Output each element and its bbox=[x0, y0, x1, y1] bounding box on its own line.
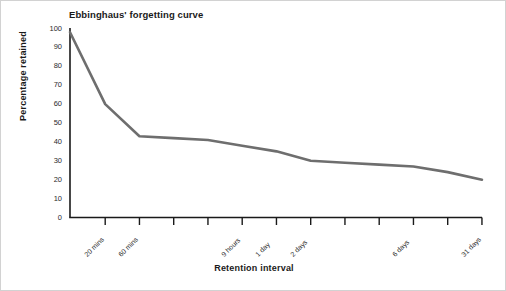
y-tick-label: 100 bbox=[36, 24, 62, 33]
y-tick-label: 20 bbox=[36, 175, 62, 184]
x-axis-ticks bbox=[105, 218, 482, 226]
plot-area bbox=[1, 1, 506, 291]
axes bbox=[69, 28, 482, 218]
y-tick-label: 30 bbox=[36, 156, 62, 165]
y-tick-label: 10 bbox=[36, 194, 62, 203]
y-tick-label: 40 bbox=[36, 137, 62, 146]
y-tick-label: 70 bbox=[36, 80, 62, 89]
y-tick-label: 50 bbox=[36, 118, 62, 127]
forgetting-curve-line bbox=[70, 32, 482, 179]
y-tick-label: 90 bbox=[36, 42, 62, 51]
data-series bbox=[70, 32, 482, 179]
chart-figure: Ebbinghaus' forgetting curve Percentage … bbox=[0, 0, 506, 291]
y-tick-label: 0 bbox=[36, 213, 62, 222]
y-tick-label: 80 bbox=[36, 61, 62, 70]
y-tick-label: 60 bbox=[36, 99, 62, 108]
